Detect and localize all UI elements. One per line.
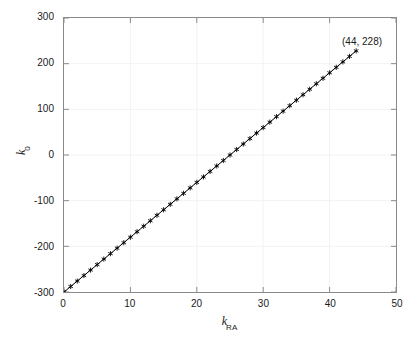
chart-figure: -300-200-1000100200300 01020304050 k0 kR… [0, 0, 420, 338]
data-point-annotation: (44, 228) [342, 36, 382, 47]
plot-canvas [64, 18, 396, 292]
y-tick-label: 100 [0, 104, 54, 114]
x-tick-label: 20 [191, 299, 202, 309]
y-tick-label: -100 [0, 196, 54, 206]
y-tick-label: 200 [0, 58, 54, 68]
y-axis-label: k0 [14, 145, 30, 155]
y-tick-label: -300 [0, 288, 54, 298]
y-tick-label: -200 [0, 242, 54, 252]
x-axis-label: kRA [222, 314, 238, 330]
x-tick-label: 30 [258, 299, 269, 309]
x-axis-label-subscript: RA [226, 323, 237, 332]
x-tick-label: 10 [124, 299, 135, 309]
x-tick-label: 0 [60, 299, 66, 309]
plot-area [63, 17, 397, 293]
x-tick-label: 50 [391, 299, 402, 309]
y-axis-label-subscript: 0 [23, 146, 32, 150]
x-tick-label: 40 [325, 299, 336, 309]
y-tick-label: 300 [0, 12, 54, 22]
